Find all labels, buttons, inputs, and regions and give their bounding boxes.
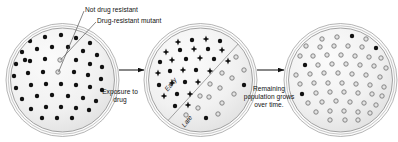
- dish-agar-surface: [289, 28, 393, 132]
- colony-resistant: [298, 54, 302, 58]
- colony-susceptible: [81, 96, 85, 100]
- colony-susceptible: [194, 68, 198, 72]
- label-not-drug-resistant: Not drug resistant: [85, 6, 138, 14]
- colony-susceptible: [35, 94, 39, 98]
- colony-susceptible: [35, 47, 39, 51]
- colony-resistant: [220, 71, 224, 75]
- colony-susceptible: [183, 80, 187, 84]
- colony-resistant: [196, 106, 200, 110]
- colony-susceptible: [20, 97, 24, 101]
- colony-resistant: [220, 101, 224, 105]
- colony-susceptible: [12, 74, 16, 78]
- colony-resistant: [346, 44, 350, 48]
- colony-susceptible: [72, 70, 76, 74]
- label-drug-resistant-mutant: Drug-resistant mutant: [97, 17, 161, 25]
- colony-resistant: [356, 110, 360, 114]
- colony-susceptible: [81, 49, 85, 53]
- colony-resistant: [318, 45, 322, 49]
- colony-susceptible: [74, 106, 78, 110]
- colony-resistant: [311, 54, 315, 58]
- colony-resistant: [294, 73, 298, 77]
- colony-susceptible: [40, 116, 44, 120]
- colony-resistant: [368, 111, 372, 115]
- colony-resistant: [362, 101, 366, 105]
- colony-resistant: [314, 91, 318, 95]
- colony-resistant: [322, 71, 326, 75]
- colony-susceptible: [23, 58, 27, 62]
- colony-susceptible: [168, 69, 172, 73]
- colony-susceptible: [86, 73, 90, 77]
- colony-resistant: [364, 37, 368, 41]
- colony-susceptible: [41, 70, 45, 74]
- colony-resistant: [207, 95, 211, 99]
- dish-agar-surface: [149, 28, 253, 132]
- colony-resistant: [356, 91, 360, 95]
- petri-dish-initial-population: [6, 24, 119, 137]
- colony-resistant: [198, 94, 202, 98]
- colony-resistant: [367, 55, 371, 59]
- antibiotic-resistance-diagram: Not drug resistant Drug-resistant mutant…: [0, 0, 398, 142]
- colony-susceptible: [59, 33, 63, 37]
- colony-resistant: [356, 118, 360, 122]
- dish-agar-surface: [11, 28, 115, 132]
- colony-susceptible: [44, 105, 48, 109]
- colony-susceptible: [74, 58, 78, 62]
- colony-susceptible: [88, 85, 92, 89]
- colony-resistant: [358, 63, 362, 67]
- colony-susceptible: [184, 57, 188, 61]
- colony-susceptible: [175, 92, 179, 96]
- colony-resistant: [380, 94, 384, 98]
- colony-susceptible: [95, 53, 99, 57]
- colony-resistant: [320, 37, 324, 41]
- colony-resistant: [360, 45, 364, 49]
- colony-susceptible: [88, 62, 92, 66]
- colony-resistant: [344, 62, 348, 66]
- colony-resistant: [230, 76, 234, 80]
- colony-resistant: [326, 81, 330, 85]
- colony-susceptible: [66, 94, 70, 98]
- colony-resistant: [312, 81, 316, 85]
- colony-resistant: [374, 103, 378, 107]
- colony-susceptible: [43, 57, 47, 61]
- colony-resistant: [342, 90, 346, 94]
- colony-resistant: [339, 53, 343, 57]
- colony-susceptible: [178, 48, 182, 52]
- colony-resistant: [354, 82, 358, 86]
- colony-susceptible: [99, 77, 103, 81]
- diagram-canvas: [0, 0, 398, 142]
- colony-resistant: [330, 62, 334, 66]
- colony-resistant: [328, 118, 332, 122]
- colony-resistant: [379, 56, 383, 60]
- colony-resistant: [364, 73, 368, 77]
- colony-susceptible: [218, 39, 222, 43]
- colony-susceptible: [50, 93, 54, 97]
- petri-dish-drug-exposed: [144, 24, 257, 137]
- colony-resistant: [348, 100, 352, 104]
- colony-resistant: [328, 109, 332, 113]
- colony-susceptible: [74, 83, 78, 87]
- colony-susceptible: [59, 105, 63, 109]
- colony-resistant: [304, 44, 308, 48]
- colony-susceptible: [350, 34, 354, 38]
- colony-resistant: [234, 55, 238, 59]
- colony-resistant: [382, 85, 386, 89]
- colony-resistant: [314, 110, 318, 114]
- colony-resistant: [353, 54, 357, 58]
- colony-resistant: [340, 81, 344, 85]
- colony-susceptible: [29, 83, 33, 87]
- colony-resistant: [332, 44, 336, 48]
- colony-susceptible: [70, 116, 74, 120]
- colony-resistant: [208, 82, 212, 86]
- colony-resistant: [316, 63, 320, 67]
- colony-resistant: [218, 86, 222, 90]
- petri-dish-resistant-population: [284, 24, 397, 137]
- colony-resistant: [325, 53, 329, 57]
- colony-susceptible: [87, 108, 91, 112]
- colony-resistant: [56, 70, 60, 74]
- colony-susceptible: [50, 45, 54, 49]
- colony-resistant: [370, 92, 374, 96]
- colony-susceptible: [206, 47, 210, 51]
- colony-resistant: [335, 35, 339, 39]
- colony-susceptible: [157, 83, 161, 87]
- colony-susceptible: [173, 104, 177, 108]
